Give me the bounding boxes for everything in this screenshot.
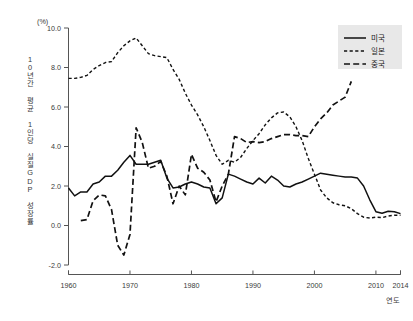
legend-label-미국[interactable]: 미국 (371, 34, 385, 43)
y-tick-label: 0.0 (51, 221, 61, 230)
y-tick-label: -2.0 (49, 261, 61, 270)
x-tick-label: 1990 (245, 281, 261, 290)
legend-label-일본[interactable]: 일본 (371, 47, 385, 56)
gdp-growth-line-chart: (%) 10년간 평균 1인당 실질GDP 성장률 -2.00.02.04.06… (0, 0, 413, 321)
chart-container: (%) 10년간 평균 1인당 실질GDP 성장률 -2.00.02.04.06… (0, 0, 413, 321)
y-axis-title: 10년간 평균 1인당 실질GDP 성장률 (27, 55, 34, 226)
x-axis-title: 연도 (386, 296, 400, 305)
y-tick-label: 8.0 (51, 63, 61, 72)
x-tick-label: 2014 (393, 281, 409, 290)
legend-background (338, 25, 402, 69)
x-tick-label: 2010 (368, 281, 384, 290)
legend-label-중국[interactable]: 중국 (371, 60, 385, 69)
y-axis-title-char: 간 (27, 79, 34, 88)
chart-legend[interactable]: 미국일본중국 (338, 25, 402, 69)
y-axis-title-char: 률 (27, 217, 34, 226)
y-axis-title-char: P (28, 185, 33, 194)
y-axis-title-char: 균 (27, 104, 34, 113)
x-tick-label: 1970 (122, 281, 138, 290)
y-tick-label: 10.0 (47, 24, 61, 33)
y-axis-title-char: 당 (27, 136, 34, 145)
x-tick-label: 2000 (306, 281, 322, 290)
y-tick-label: 4.0 (51, 142, 61, 151)
x-tick-label: 1980 (183, 281, 199, 290)
x-tick-label: 1960 (61, 281, 77, 290)
y-tick-label: 6.0 (51, 103, 61, 112)
y-tick-label: 2.0 (51, 182, 61, 191)
